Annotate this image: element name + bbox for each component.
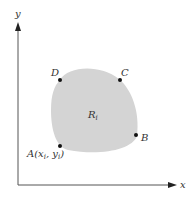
point-c-label: C (121, 67, 129, 78)
point-d-label: D (50, 67, 59, 78)
region-diagram: y x D C B A(xi, yi) Ri (0, 0, 186, 198)
point-d (58, 78, 62, 82)
x-axis-label: x (180, 179, 186, 190)
point-a-label: A(xi, yi) (26, 148, 64, 161)
y-axis-label: y (14, 8, 21, 19)
point-b-label: B (140, 132, 148, 143)
point-b (134, 133, 138, 137)
point-c (118, 78, 122, 82)
x-axis-arrow-icon (168, 182, 177, 188)
y-axis-arrow-icon (15, 22, 21, 31)
